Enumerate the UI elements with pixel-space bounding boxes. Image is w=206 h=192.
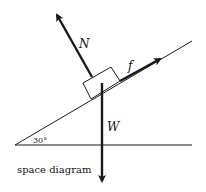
diagram-caption: space diagram	[17, 164, 92, 175]
friction-force-arrow	[120, 59, 160, 81]
normal-force-label: N	[78, 37, 90, 51]
friction-force-label: f	[127, 59, 135, 73]
weight-label: W	[107, 120, 121, 134]
angle-label: 30°	[33, 136, 47, 145]
space-diagram: N f W 30° space diagram	[0, 0, 206, 192]
incline-line	[15, 41, 192, 145]
